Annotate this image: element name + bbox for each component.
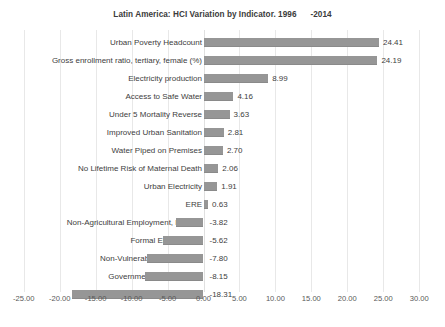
x-tick-label: 5.00	[232, 294, 247, 303]
bar-rows: Urban Poverty Headcount24.41Gross enroll…	[0, 30, 445, 292]
bar-row: Urban Poverty Headcount24.41	[0, 34, 445, 52]
bar	[204, 182, 218, 191]
bar-row: Formal Employment-5.62	[0, 232, 445, 250]
bar-row: Water Piped on Premises2.70	[0, 142, 445, 160]
value-label: -8.15	[210, 268, 228, 286]
bar	[147, 254, 203, 263]
bar	[204, 110, 230, 119]
bar-row: Improved Urban Sanitation2.81	[0, 124, 445, 142]
value-label: -7.80	[210, 250, 228, 268]
x-axis: -25.00-20.00-15.00-10.00-5.000.005.0010.…	[0, 294, 445, 314]
category-label: Water Piped on Premises	[112, 142, 202, 160]
bar	[204, 200, 209, 209]
value-label: -5.62	[210, 232, 228, 250]
value-label: 8.99	[272, 70, 288, 88]
bar	[204, 56, 378, 65]
value-label: -3.82	[210, 214, 228, 232]
value-label: 4.16	[237, 88, 253, 106]
bar-row: Gross enrollment ratio, tertiary, female…	[0, 52, 445, 70]
bar-row: Non-Agricultural Employment, Female-3.82	[0, 214, 445, 232]
category-label: Improved Urban Sanitation	[107, 124, 202, 142]
category-label: No Lifetime Risk of Maternal Death	[78, 160, 202, 178]
value-label: 24.19	[381, 52, 401, 70]
x-tick-label: -5.00	[159, 294, 176, 303]
value-label: 2.06	[222, 160, 238, 178]
x-tick-label: -25.00	[13, 294, 35, 303]
category-label: Gross enrollment ratio, tertiary, female…	[52, 52, 202, 70]
bar	[204, 92, 234, 101]
x-tick-label: -15.00	[85, 294, 107, 303]
x-tick-label: 30.00	[410, 294, 429, 303]
x-tick-label: 20.00	[338, 294, 357, 303]
category-label: ERE	[186, 196, 202, 214]
bar	[204, 128, 224, 137]
x-tick-label: 25.00	[374, 294, 393, 303]
bar-row: Access to Safe Water4.16	[0, 88, 445, 106]
bar-row: No Lifetime Risk of Maternal Death2.06	[0, 160, 445, 178]
x-tick-label: 10.00	[266, 294, 285, 303]
value-label: 1.91	[221, 178, 237, 196]
x-tick-label: 15.00	[302, 294, 321, 303]
bar	[176, 218, 203, 227]
bar-row: Non-Vulnerable Employment-7.80	[0, 250, 445, 268]
bar-row: Electricity production8.99	[0, 70, 445, 88]
category-label: Electricity production	[128, 70, 202, 88]
bar-row: Government Effectiveness-8.15	[0, 268, 445, 286]
category-label: Access to Safe Water	[125, 88, 202, 106]
bar	[163, 236, 203, 245]
bar	[204, 146, 223, 155]
value-label: 2.70	[227, 142, 243, 160]
x-tick-label: -10.00	[121, 294, 143, 303]
plot-area: Urban Poverty Headcount24.41Gross enroll…	[0, 30, 445, 292]
bar	[204, 74, 269, 83]
bar	[145, 272, 204, 281]
value-label: 0.63	[212, 196, 228, 214]
bar	[204, 164, 219, 173]
bar-row: Under 5 Mortality Reverse3.63	[0, 106, 445, 124]
category-label: Under 5 Mortality Reverse	[109, 106, 202, 124]
value-label: 2.81	[228, 124, 244, 142]
bar-row: ERE0.63	[0, 196, 445, 214]
category-label: Urban Electricity	[144, 178, 202, 196]
bar	[204, 38, 380, 47]
x-tick-label: -20.00	[49, 294, 71, 303]
value-label: 24.41	[383, 34, 403, 52]
category-label: Urban Poverty Headcount	[110, 34, 202, 52]
bar-row: Urban Electricity1.91	[0, 178, 445, 196]
x-tick-label: 0.00	[196, 294, 211, 303]
bar-chart: Latin America: HCI Variation by Indicato…	[0, 0, 445, 327]
value-label: 3.63	[234, 106, 250, 124]
chart-title: Latin America: HCI Variation by Indicato…	[0, 10, 445, 19]
